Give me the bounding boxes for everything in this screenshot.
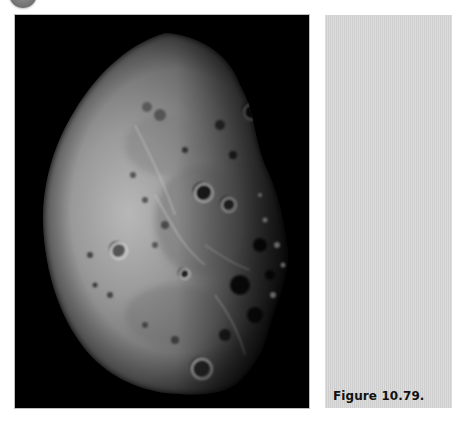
page-tab-marker [9,0,37,8]
moon-photograph [15,15,309,408]
moon-image [15,15,309,408]
caption-panel: Figure 10.79. [325,15,452,408]
figure-caption: Figure 10.79. [333,389,425,403]
